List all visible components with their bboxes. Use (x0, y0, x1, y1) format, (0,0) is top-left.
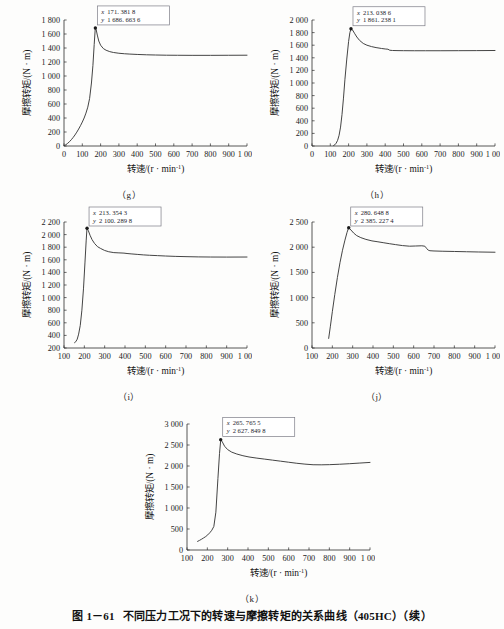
annotation-x-var: x (226, 419, 230, 426)
x-tick-label: 400 (242, 554, 254, 563)
chart-plot-h: 01002003004005006007008009001 0000200400… (254, 4, 500, 190)
x-axis-title-main: 转速/(r · min (375, 163, 425, 175)
y-tick-label: 1 600 (42, 256, 60, 265)
peak-marker-dot (85, 227, 88, 230)
x-tick-label: 700 (303, 554, 315, 563)
x-tick-label: 500 (262, 554, 274, 563)
annotation-y-value: 2 385. 227 4 (361, 217, 395, 224)
y-tick-label: 400 (48, 331, 60, 340)
y-tick-label: 1 600 (290, 41, 308, 50)
y-tick-label: 800 (48, 306, 60, 315)
x-axis-title: 转速/(r · min-1) (375, 365, 433, 377)
y-tick-label: 1 200 (42, 58, 60, 67)
y-tick-label: 0 (304, 344, 308, 353)
chart-panel-i: 1002003004005006007008009001 00020040060… (6, 206, 252, 403)
x-axis-title-close: ) (181, 164, 184, 175)
data-curve (75, 228, 247, 342)
y-tick-label: 1 200 (290, 66, 308, 75)
data-curve (198, 440, 370, 542)
y-tick-label: 2 000 (42, 231, 60, 240)
y-tick-label: 1 000 (42, 294, 60, 303)
x-tick-label: 700 (180, 352, 192, 361)
x-tick-label: 0 (310, 150, 314, 159)
annotation-y-line: y2 100. 289 8 (92, 217, 133, 224)
chart-panel-k: 1002003004005006007008009001 00005001 00… (129, 408, 375, 605)
annotation-y-line: y2 385. 227 4 (354, 217, 395, 224)
annotation-y-var: y (226, 427, 230, 434)
figure-caption: 图 1－61不同压力工况下的转速与摩擦转矩的关系曲线（405HC）（续） (0, 607, 504, 623)
x-tick-label: 100 (324, 150, 336, 159)
y-axis-title: 摩擦转矩/(N · m) (21, 252, 33, 319)
chart-plot-g: 01002003004005006007008009001 0000200400… (6, 4, 252, 190)
x-tick-label: 800 (448, 352, 460, 361)
x-axis-title-main: 转速/(r · min (375, 365, 425, 377)
annotation-y-line: y1 686. 663 6 (100, 16, 141, 23)
x-tick-label: 200 (94, 150, 106, 159)
y-tick-label: 800 (296, 92, 308, 101)
x-tick-label: 300 (347, 352, 359, 361)
y-tick-label: 400 (48, 114, 60, 123)
y-axis-title: 摩擦转矩/(N · m) (269, 252, 281, 319)
peak-marker-dot (349, 27, 352, 30)
x-tick-label: 200 (78, 352, 90, 361)
annotation-x-var: x (354, 209, 358, 216)
x-tick-label: 500 (397, 150, 409, 159)
annotation-y-value: 1 686. 663 6 (107, 16, 141, 23)
peak-marker-dot (94, 26, 97, 29)
x-axis-title: 转速/(r · min-1) (375, 163, 433, 175)
x-axis-title-close: ) (304, 568, 307, 579)
x-tick-label: 300 (113, 150, 125, 159)
x-tick-label: 800 (204, 150, 216, 159)
y-axis-title: 摩擦转矩/(N · m) (269, 50, 281, 117)
x-tick-label: 400 (119, 352, 131, 361)
figure-sheet: 01002003004005006007008009001 0000200400… (0, 0, 504, 629)
y-tick-label: 600 (48, 319, 60, 328)
x-tick-label: 400 (379, 150, 391, 159)
y-tick-label: 1 600 (42, 30, 60, 39)
x-tick-label: 300 (361, 150, 373, 159)
annotation-x-var: x (356, 9, 360, 16)
annotation-x-value: 280. 648 8 (361, 209, 390, 216)
x-tick-label: 200 (326, 352, 338, 361)
y-axis-title: 摩擦转矩/(N · m) (21, 50, 33, 117)
y-tick-label: 1 000 (42, 72, 60, 81)
y-tick-label: 800 (48, 86, 60, 95)
y-tick-label: 2 200 (42, 218, 60, 227)
x-tick-label: 900 (221, 352, 233, 361)
x-axis-title-close: ) (429, 366, 432, 377)
y-tick-label: 600 (296, 104, 308, 113)
annotation-x-value: 171. 381 8 (107, 8, 136, 15)
panel-label-k: （k） (129, 592, 375, 605)
annotation-y-var: y (356, 16, 360, 23)
chart-plot-j: 1002003004005006007008009001 00005001 00… (254, 206, 500, 392)
annotation-y-line: y2 627. 849 8 (226, 427, 267, 434)
y-tick-label: 500 (171, 525, 183, 534)
x-tick-label: 1 000 (361, 554, 375, 563)
x-tick-label: 1 000 (486, 150, 500, 159)
x-tick-label: 500 (139, 352, 151, 361)
y-tick-label: 1 400 (42, 268, 60, 277)
annotation-y-var: y (354, 217, 358, 224)
y-tick-label: 1 400 (290, 54, 308, 63)
panel-label-g: （g） (6, 188, 252, 201)
y-tick-label: 200 (48, 344, 60, 353)
x-axis-title-main: 转速/(r · min (250, 567, 300, 579)
x-tick-label: 500 (387, 352, 399, 361)
x-tick-label: 900 (223, 150, 235, 159)
y-tick-label: 1 400 (42, 44, 60, 53)
y-tick-label: 200 (48, 128, 60, 137)
figure-caption-text: 不同压力工况下的转速与摩擦转矩的关系曲线（405HC）（续） (123, 610, 432, 622)
panel-label-i: （i） (6, 390, 252, 403)
annotation-x-value: 213. 038 6 (363, 9, 392, 16)
x-tick-label: 800 (323, 554, 335, 563)
y-tick-label: 2 000 (165, 462, 183, 471)
chart-plot-k: 1002003004005006007008009001 00005001 00… (129, 408, 375, 594)
y-tick-label: 1 500 (290, 268, 308, 277)
y-tick-label: 1 000 (165, 504, 183, 513)
y-tick-label: 1 800 (42, 243, 60, 252)
y-tick-label: 2 500 (290, 218, 308, 227)
y-tick-label: 200 (296, 129, 308, 138)
data-curve (64, 28, 247, 146)
annotation-y-var: y (92, 217, 96, 224)
y-tick-label: 2 000 (290, 16, 308, 25)
